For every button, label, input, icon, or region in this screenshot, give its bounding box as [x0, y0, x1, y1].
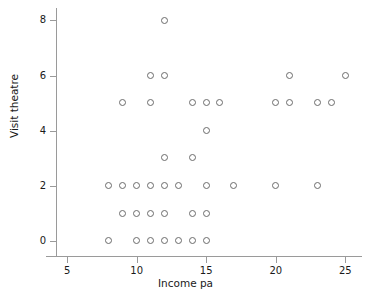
- x-axis-tick-label: 15: [194, 266, 218, 276]
- data-point: [203, 182, 210, 189]
- data-point: [272, 182, 279, 189]
- data-point: [175, 237, 182, 244]
- data-point: [189, 99, 196, 106]
- x-axis-tick-label: 20: [264, 266, 288, 276]
- data-point: [286, 99, 293, 106]
- data-point: [342, 72, 349, 79]
- y-axis-tick: [50, 186, 56, 187]
- data-point: [314, 99, 321, 106]
- data-point: [203, 237, 210, 244]
- data-point: [161, 17, 168, 24]
- data-point: [147, 210, 154, 217]
- data-point: [216, 99, 223, 106]
- y-axis-tick-label: 2: [26, 181, 46, 191]
- data-point: [133, 182, 140, 189]
- x-axis-tick: [137, 257, 138, 263]
- data-point: [119, 210, 126, 217]
- y-axis-tick-label: 8: [26, 15, 46, 25]
- x-axis-line: [46, 256, 362, 257]
- data-point: [133, 210, 140, 217]
- data-point: [161, 72, 168, 79]
- y-axis-tick: [50, 20, 56, 21]
- data-point: [189, 210, 196, 217]
- x-axis-tick-label: 10: [125, 266, 149, 276]
- data-point: [105, 237, 112, 244]
- x-axis-tick: [276, 257, 277, 263]
- y-axis-line: [56, 8, 57, 257]
- data-point: [161, 182, 168, 189]
- data-point: [133, 237, 140, 244]
- data-point: [189, 237, 196, 244]
- y-axis-title: Visit theatre: [8, 56, 20, 156]
- data-point: [147, 99, 154, 106]
- data-point: [314, 182, 321, 189]
- y-axis-tick-label: 4: [26, 126, 46, 136]
- x-axis-tick: [345, 257, 346, 263]
- x-axis-tick-label: 25: [333, 266, 357, 276]
- x-axis-tick: [206, 257, 207, 263]
- data-point: [175, 182, 182, 189]
- x-axis-tick-label: 5: [55, 266, 79, 276]
- scatter-plot: 02468 510152025 Income pa Visit theatre: [0, 0, 371, 296]
- y-axis-tick: [50, 241, 56, 242]
- data-point: [161, 210, 168, 217]
- data-point: [203, 99, 210, 106]
- x-axis-title: Income pa: [0, 277, 371, 289]
- data-point: [147, 182, 154, 189]
- y-axis-tick-label: 6: [26, 71, 46, 81]
- x-axis-tick: [67, 257, 68, 263]
- data-point: [147, 237, 154, 244]
- data-point: [105, 182, 112, 189]
- y-axis-tick-label: 0: [26, 236, 46, 246]
- data-point: [119, 99, 126, 106]
- data-point: [189, 154, 196, 161]
- y-axis-tick: [50, 131, 56, 132]
- data-point: [272, 99, 279, 106]
- y-axis-tick: [50, 76, 56, 77]
- data-point: [286, 72, 293, 79]
- data-point: [119, 182, 126, 189]
- data-point: [161, 154, 168, 161]
- data-point: [230, 182, 237, 189]
- data-point: [161, 237, 168, 244]
- data-point: [328, 99, 335, 106]
- data-point: [203, 210, 210, 217]
- data-point: [203, 127, 210, 134]
- data-point: [147, 72, 154, 79]
